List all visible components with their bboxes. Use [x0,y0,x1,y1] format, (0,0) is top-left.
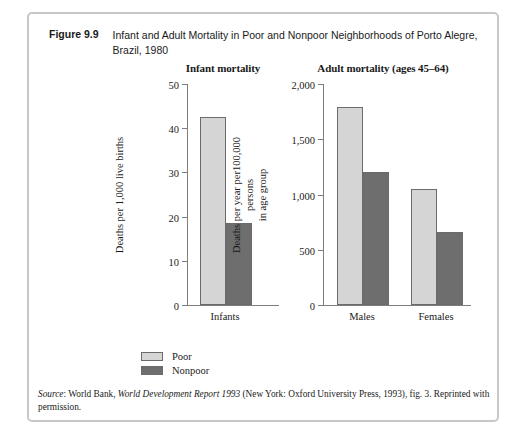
chart-title-adult-mortality: Adult mortality (ages 45–64) [269,62,497,74]
bar-adult-females-nonpoor [437,232,463,305]
y-tick-adult-0 [318,305,323,306]
y-tick-infant-0 [182,305,187,306]
source-label: Source [38,389,63,399]
x-category-label-adult-females: Females [419,311,454,322]
y-tick-infant-1 [182,261,187,262]
legend-swatch-nonpoor [141,366,163,375]
y-axis-title-adult-line1: Deaths per year per100,000 persons [231,137,255,253]
y-axis-title-adult-line2: in age group [257,169,268,222]
charts-container: Infant mortality Deaths per 1,000 live b… [29,62,497,332]
figure-caption-text: Infant and Adult Mortality in Poor and N… [113,28,481,57]
y-tick-infant-4 [182,128,187,129]
x-axis-line-adult [323,305,471,306]
y-tick-label-infant-5: 50 [169,80,180,91]
y-tick-label-adult-3: 1,500 [291,135,315,146]
source-report-title: World Development Report 1993 [118,389,240,399]
y-tick-label-infant-1: 10 [169,256,180,267]
y-tick-label-infant-2: 20 [169,212,180,223]
plot-area-adult-mortality: Deaths per year per100,000 persons in ag… [323,84,471,306]
y-tick-infant-5 [182,84,187,85]
legend-swatch-poor [141,352,163,361]
y-axis-title-adult: Deaths per year per100,000 persons in ag… [230,120,269,270]
legend-item-poor: Poor [141,350,209,363]
figure-caption: Figure 9.9 Infant and Adult Mortality in… [49,28,481,57]
y-tick-infant-2 [182,217,187,218]
chart-legend: Poor Nonpoor [141,350,209,378]
y-tick-label-infant-4: 40 [169,124,180,135]
figure-number: Figure 9.9 [49,28,99,40]
bar-infant-infants-poor [200,117,226,305]
y-tick-infant-3 [182,172,187,173]
bar-adult-males-nonpoor [363,172,389,305]
y-tick-adult-2 [318,195,323,196]
chart-panel-adult-mortality: Adult mortality (ages 45–64) Deaths per … [269,62,497,332]
legend-label-poor: Poor [172,351,192,362]
bars-adult [324,84,471,305]
legend-label-nonpoor: Nonpoor [172,365,209,376]
y-tick-label-adult-1: 500 [299,245,315,256]
source-note: Source: World Bank, World Development Re… [38,388,490,413]
source-part1: : World Bank, [63,389,117,399]
x-category-label-adult-males: Males [349,311,375,322]
x-axis-line-infant [187,305,279,306]
y-tick-adult-4 [318,84,323,85]
y-tick-label-infant-0: 0 [174,301,179,312]
y-tick-label-infant-3: 30 [169,168,180,179]
y-tick-adult-1 [318,250,323,251]
y-tick-label-adult-4: 2,000 [291,80,315,91]
y-axis-title-infant: Deaths per 1,000 live births [114,137,125,253]
bar-adult-females-poor [411,189,437,305]
y-tick-adult-3 [318,139,323,140]
legend-item-nonpoor: Nonpoor [141,364,209,377]
x-category-label-infant-infants: Infants [210,311,239,322]
bar-adult-males-poor [337,107,363,305]
y-tick-label-adult-0: 0 [310,301,315,312]
figure-frame: Figure 9.9 Infant and Adult Mortality in… [27,12,499,422]
y-tick-label-adult-2: 1,000 [291,190,315,201]
